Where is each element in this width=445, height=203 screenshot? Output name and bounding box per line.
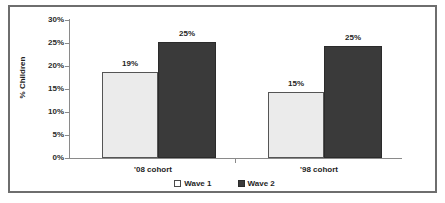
- y-axis-tick-label: 30%: [34, 16, 64, 24]
- bar-wave-1: [268, 92, 324, 158]
- y-axis-tick-mark: [65, 112, 70, 113]
- y-axis-tick-label: 5%: [34, 131, 64, 139]
- chart-legend: Wave 1Wave 2: [10, 179, 439, 188]
- legend-label: Wave 2: [248, 179, 275, 188]
- legend-label: Wave 1: [184, 179, 211, 188]
- bar-wave-1: [102, 72, 158, 158]
- x-axis-category-label: '08 cohort: [108, 165, 198, 174]
- y-axis-tick-label: 0%: [34, 154, 64, 162]
- y-axis-tick-label: 10%: [34, 108, 64, 116]
- x-axis-category-label: '98 cohort: [274, 165, 364, 174]
- legend-swatch-icon: [238, 180, 245, 187]
- y-axis-tick-mark: [65, 89, 70, 90]
- bar-value-label: 15%: [268, 80, 324, 88]
- legend-swatch-icon: [174, 180, 181, 187]
- y-axis-tick-mark: [65, 158, 70, 159]
- plot-area: % Children 0%5%10%15%20%25%30% 19%25%15%…: [10, 7, 439, 195]
- bar-wave-2: [324, 46, 382, 158]
- y-axis-tick-label: 20%: [34, 62, 64, 70]
- y-axis-tick-mark: [65, 20, 70, 21]
- bar-value-label: 25%: [158, 30, 216, 38]
- legend-entry-wave-1[interactable]: Wave 1: [174, 179, 211, 188]
- legend-entry-wave-2[interactable]: Wave 2: [238, 179, 275, 188]
- bar-value-label: 19%: [102, 60, 158, 68]
- bar-wave-2: [158, 42, 216, 158]
- y-axis-title: % Children: [18, 48, 27, 108]
- y-axis-tick-mark: [65, 43, 70, 44]
- bar-value-label: 25%: [324, 34, 382, 42]
- chart-frame: % Children 0%5%10%15%20%25%30% 19%25%15%…: [8, 5, 437, 193]
- y-axis-tick-label: 25%: [34, 39, 64, 47]
- y-axis-tick-mark: [65, 66, 70, 67]
- y-axis-tick-mark: [65, 135, 70, 136]
- y-axis-tick-label: 15%: [34, 85, 64, 93]
- x-axis-group-tick: [235, 158, 236, 163]
